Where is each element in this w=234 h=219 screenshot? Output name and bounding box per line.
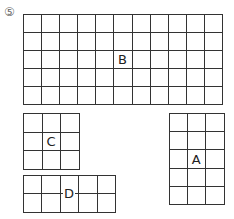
problem-number: ⑤ [4,5,15,19]
shape-label-c: C [46,135,57,148]
shape-label-b: B [117,53,128,66]
shape-label-d: D [63,187,75,200]
shape-label-a: A [191,152,202,165]
